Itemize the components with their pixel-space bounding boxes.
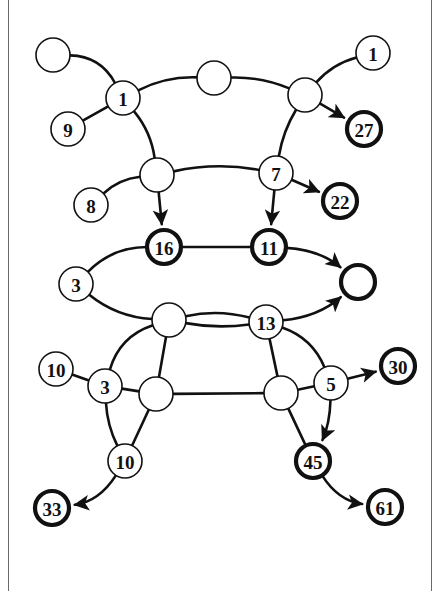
edge-line: [103, 177, 140, 194]
graph-node-empty: [197, 61, 231, 95]
edge-line: [89, 295, 152, 319]
edge-line: [173, 393, 264, 394]
edge-line: [288, 408, 306, 445]
edge-line: [186, 313, 250, 318]
node-label: 10: [47, 360, 66, 381]
node-label: 3: [100, 377, 110, 398]
node-circle: [152, 303, 186, 337]
node-label: 11: [260, 238, 278, 259]
graph-diagram: 191277822161131310353010453361: [0, 0, 448, 591]
directed-edge-arrow: [159, 192, 162, 224]
graph-node-3: 3: [88, 369, 122, 403]
edge-line: [88, 247, 147, 272]
node-label: 3: [71, 275, 81, 296]
node-label: 8: [86, 196, 96, 217]
graph-node-empty: [36, 38, 70, 72]
graph-node-7: 7: [259, 156, 293, 190]
directed-edge-arrow: [271, 190, 274, 224]
edge-line: [83, 106, 108, 120]
node-label: 10: [116, 452, 135, 473]
graph-node-empty: [139, 377, 173, 411]
directed-edge-arrow: [286, 248, 340, 267]
edge-line: [132, 409, 149, 445]
graph-node-45: 45: [296, 444, 330, 478]
graph-node-1: 1: [356, 36, 390, 70]
edge-line: [134, 111, 155, 158]
bold-node-circle: [341, 265, 375, 299]
directed-edge-arrow: [75, 475, 116, 504]
edge-line: [231, 77, 289, 88]
graph-node-13: 13: [249, 305, 283, 339]
graph-node-22: 22: [323, 184, 357, 218]
graph-node-61: 61: [368, 490, 402, 524]
node-label: 7: [271, 164, 281, 185]
graph-node-empty: [341, 265, 375, 299]
graph-node-empty: [140, 158, 174, 192]
graph-node-30: 30: [381, 349, 415, 383]
graph-node-empty: [152, 303, 186, 337]
node-circle: [264, 376, 298, 410]
edge-line: [138, 77, 197, 90]
node-circle: [36, 38, 70, 72]
graph-node-16: 16: [147, 230, 181, 264]
node-label: 30: [389, 357, 408, 378]
directed-edge-arrow: [322, 400, 330, 440]
node-label: 9: [63, 120, 73, 141]
node-label: 16: [155, 238, 174, 259]
node-label: 27: [355, 120, 375, 141]
node-circle: [197, 61, 231, 95]
graph-node-empty: [288, 78, 322, 112]
graph-node-27: 27: [347, 112, 381, 146]
edge-line: [110, 325, 153, 369]
node-label: 1: [118, 89, 128, 110]
directed-edge-arrow: [320, 103, 344, 117]
edge-line: [316, 57, 356, 82]
graph-node-5: 5: [314, 366, 348, 400]
directed-edge-arrow: [292, 180, 319, 192]
graph-node-8: 8: [74, 188, 108, 222]
node-layer: 191277822161131310353010453361: [35, 36, 415, 525]
node-label: 45: [304, 452, 323, 473]
edge-line: [106, 403, 117, 446]
graph-node-1: 1: [106, 81, 140, 115]
node-label: 13: [257, 313, 276, 334]
node-circle: [288, 78, 322, 112]
node-label: 61: [376, 498, 395, 519]
directed-edge-arrow: [347, 372, 375, 379]
edge-line: [174, 166, 260, 171]
edge-line: [70, 55, 115, 83]
graph-node-11: 11: [252, 230, 286, 264]
node-label: 5: [326, 374, 336, 395]
edge-line: [298, 386, 315, 389]
edge-line: [282, 328, 324, 368]
directed-edge-arrow: [283, 297, 341, 320]
edge-line: [279, 110, 296, 157]
node-circle: [139, 377, 173, 411]
edge-line: [186, 323, 249, 326]
edge-line: [122, 389, 139, 392]
graph-node-9: 9: [51, 112, 85, 146]
node-label: 33: [43, 499, 62, 520]
graph-node-33: 33: [35, 491, 69, 525]
edge-layer: [70, 55, 376, 504]
directed-edge-arrow: [322, 475, 362, 504]
graph-node-3: 3: [59, 267, 93, 301]
node-label: 1: [368, 44, 378, 65]
node-label: 22: [331, 192, 350, 213]
edge-line: [72, 375, 89, 381]
graph-node-empty: [264, 376, 298, 410]
edge-line: [159, 337, 166, 378]
node-circle: [140, 158, 174, 192]
graph-node-10: 10: [39, 352, 73, 386]
edge-line: [270, 339, 278, 377]
graph-node-10: 10: [108, 444, 142, 478]
